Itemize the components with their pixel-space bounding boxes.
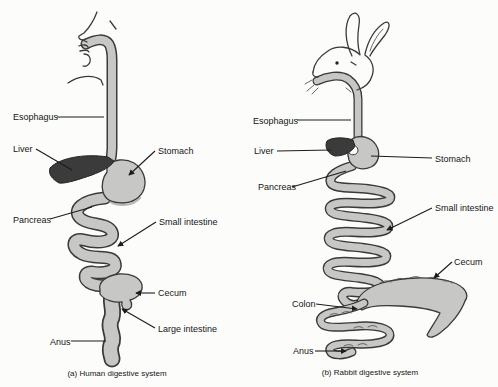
rabbit-cecum-label: Cecum [454,257,483,267]
rabbit-whiskers [305,80,351,94]
human-caption: (a) Human digestive system [67,369,166,378]
diagram-canvas: Esophagus Liver Stomach Pancreas Small i… [0,0,498,387]
rabbit-right-ear [365,22,389,56]
human-panel: Esophagus Liver Stomach Pancreas Small i… [13,12,218,378]
human-large-intestine-leader [122,309,155,328]
rabbit-caption: (b) Rabbit digestive system [322,368,419,377]
rabbit-eye [335,61,338,64]
rabbit-stomach-label: Stomach [435,154,471,164]
human-pancreas-label: Pancreas [13,215,52,225]
human-large-intestine-label: Large intestine [158,324,217,334]
human-liver-label: Liver [13,144,33,154]
rabbit-liver-leader [277,150,331,151]
digestive-systems-figure: Esophagus Liver Stomach Pancreas Small i… [0,0,498,387]
rabbit-cecum-leader [434,262,452,278]
human-anus-label: Anus [50,337,71,347]
human-esophagus-label: Esophagus [13,112,59,122]
human-large-intestine-tube-fill [110,293,113,359]
rabbit-cheek [357,55,373,90]
human-small-intestine-label: Small intestine [159,217,218,227]
rabbit-pancreas-label: Pancreas [258,182,297,192]
rabbit-stomach-leader [371,156,432,158]
human-cecum-label: Cecum [158,288,187,298]
rabbit-eye-mark [351,62,356,65]
rabbit-colon-label: Colon [292,299,316,309]
rabbit-panel: Esophagus Liver Stomach Pancreas Small i… [253,13,494,377]
human-stomach-label: Stomach [158,146,194,156]
rabbit-anus-label: Anus [293,346,314,356]
human-small-intestine-leader [118,222,156,246]
human-head-back-mark [110,21,116,29]
rabbit-small-intestine-label: Small intestine [435,203,494,213]
rabbit-liver-label: Liver [254,146,274,156]
rabbit-esophagus-tube-fill [317,76,358,140]
rabbit-esophagus-label: Esophagus [253,116,299,126]
rabbit-small-intestine-leader [387,208,432,230]
